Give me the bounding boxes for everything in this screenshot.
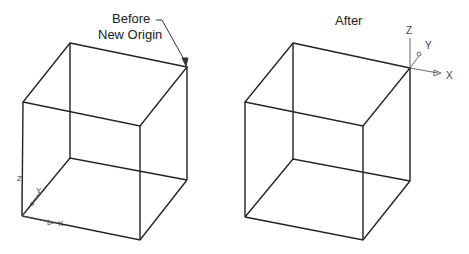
axis-label-y-before: Y [36,186,41,196]
label-before: Before [112,12,150,26]
cube-before [22,43,187,240]
label-after: After [335,14,362,28]
axis-label-y: Y [425,41,432,51]
cube-after [245,43,410,240]
axis-label-x-before: X [58,219,63,229]
axis-label-x: X [446,71,453,81]
axis-label-z-before: Z [17,174,22,184]
label-new-origin: New Origin [98,28,162,42]
diagram-canvas [0,0,469,254]
axis-label-z: Z [406,26,412,36]
